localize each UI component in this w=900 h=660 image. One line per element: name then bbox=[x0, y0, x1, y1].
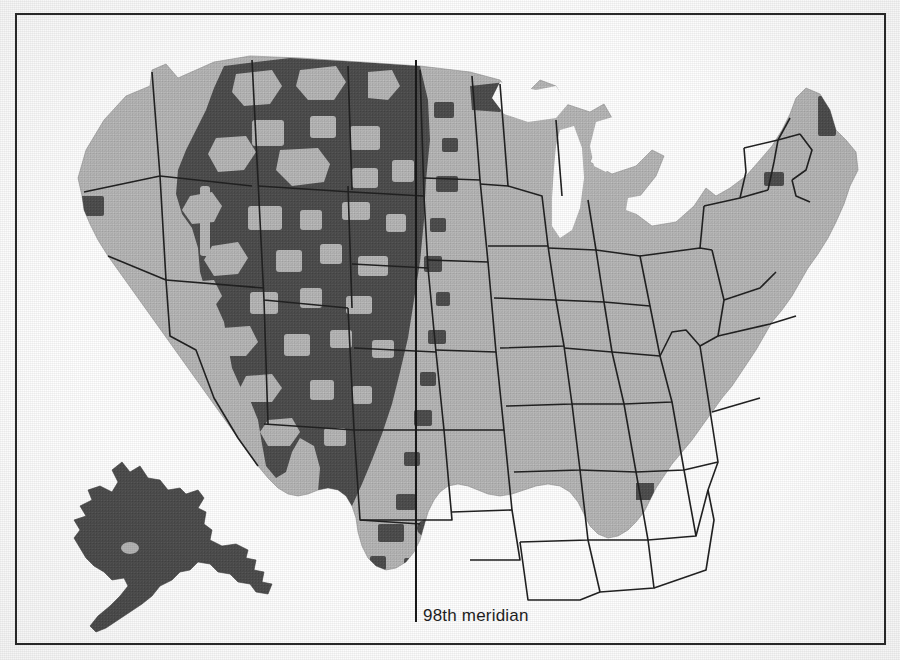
meridian-label: 98th meridian bbox=[423, 607, 529, 624]
map-figure: 98th meridian bbox=[0, 0, 900, 660]
meridian-overlay bbox=[0, 0, 900, 660]
